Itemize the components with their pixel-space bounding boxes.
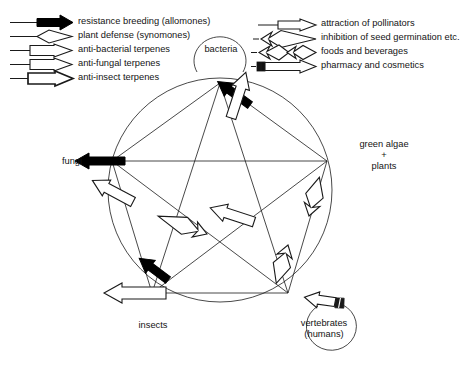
legend-icon-resistance-breeding xyxy=(10,15,73,30)
node-label-green-algae-line1: green algae xyxy=(345,139,423,150)
node-label-green-algae-plus: + xyxy=(345,150,423,161)
legend-icon-attraction-of-pollinators xyxy=(258,19,316,31)
node-label-vertebrates-group: vertebrates (humans) xyxy=(282,318,366,340)
node-label-vertebrates-line1: vertebrates xyxy=(282,318,366,329)
arrow-insects-to-bacteria xyxy=(222,70,254,121)
legend-icon-inhibition-of-seed-germination xyxy=(253,31,316,48)
node-label-vertebrates-line2: (humans) xyxy=(282,329,366,340)
legend-right xyxy=(251,19,316,73)
legend-right-label-1: inhibition of seed germination etc. xyxy=(321,33,460,42)
legend-icon-plant-defense xyxy=(10,30,72,43)
arrow-green-algae-to-vertebrates-pollinators xyxy=(207,199,256,230)
legend-left-label-3: anti-fungal terpenes xyxy=(78,59,160,68)
node-label-fungi: fungi xyxy=(52,156,92,167)
arrow-vertebrates-to-green-algae-foods xyxy=(300,175,328,218)
legend-icon-anti-insect-terpenes xyxy=(10,71,73,86)
diagram-root: .ln{stroke:#1a1a1a;fill:none;} .thin{str… xyxy=(0,0,474,370)
outer-circle xyxy=(108,78,332,302)
node-label-bacteria: bacteria xyxy=(198,44,244,55)
pentagram-network xyxy=(75,37,356,350)
legend-icon-pharmacy-and-cosmetics xyxy=(251,60,316,73)
legend-left xyxy=(10,15,73,86)
legend-right-label-2: foods and beverages xyxy=(321,47,408,56)
node-label-green-algae-group: green algae + plants xyxy=(345,139,423,172)
legend-icon-anti-bacterial-terpenes xyxy=(10,44,72,57)
legend-right-label-0: attraction of pollinators xyxy=(321,19,415,28)
arrow-green-algae-to-insects xyxy=(134,252,172,286)
arrow-vertebrates-to-insects xyxy=(104,283,166,303)
legend-left-label-0: resistance breeding (allomones) xyxy=(78,17,210,26)
legend-right-label-3: pharmacy and cosmetics xyxy=(321,61,424,70)
legend-left-label-1: plant defense (synomones) xyxy=(78,31,190,40)
legend-left-label-4: anti-insect terpenes xyxy=(78,73,159,82)
legend-left-label-2: anti-bacterial terpenes xyxy=(78,45,170,54)
arrow-inhibition-of-seed-germination xyxy=(155,208,210,243)
node-label-insects: insects xyxy=(130,320,176,331)
legend-icon-anti-fungal-terpenes xyxy=(10,58,72,71)
arrow-insects-to-fungi xyxy=(88,172,137,209)
node-label-green-algae-line3: plants xyxy=(345,161,423,172)
